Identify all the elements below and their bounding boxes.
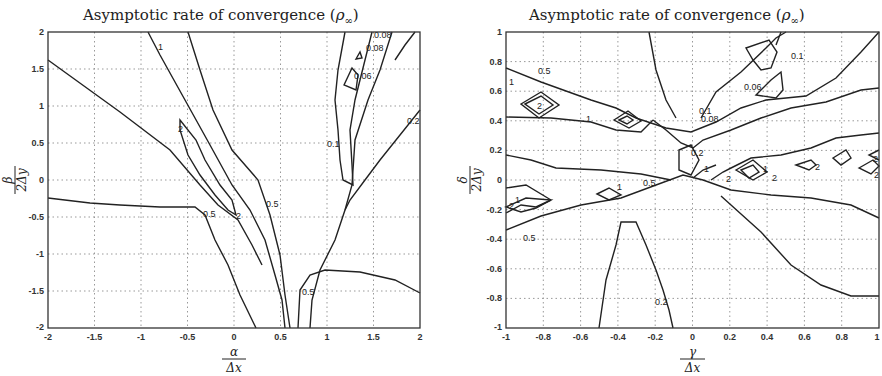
svg-text:0.8: 0.8 bbox=[835, 332, 848, 342]
svg-text:0.2: 0.2 bbox=[724, 332, 737, 342]
svg-text:0.06: 0.06 bbox=[354, 71, 372, 81]
svg-text:-0.8: -0.8 bbox=[486, 293, 502, 303]
left-plot-canvas: 1 2 0.5 2 0.5 0.1 0.06 0.08 0.08 0.2 0.5… bbox=[0, 0, 441, 376]
svg-text:-1: -1 bbox=[502, 332, 510, 342]
svg-text:-2: -2 bbox=[44, 332, 52, 342]
svg-text:2: 2 bbox=[726, 174, 731, 184]
svg-text:0: 0 bbox=[690, 332, 695, 342]
svg-text:1: 1 bbox=[515, 195, 520, 205]
left-x-ticks: -2-1.5 -1-0.5 00.5 11.5 2 bbox=[44, 332, 423, 342]
svg-text:1: 1 bbox=[39, 101, 44, 111]
svg-text:0.5: 0.5 bbox=[266, 199, 279, 209]
svg-text:0.08: 0.08 bbox=[701, 114, 719, 124]
svg-text:-2: -2 bbox=[36, 322, 44, 332]
svg-text:1: 1 bbox=[158, 42, 163, 52]
right-y-axis-label: δ 2Δy bbox=[456, 166, 484, 194]
svg-text:0.5: 0.5 bbox=[274, 332, 287, 342]
svg-text:0.5: 0.5 bbox=[203, 209, 216, 219]
svg-text:1: 1 bbox=[704, 164, 709, 174]
svg-text:0.8: 0.8 bbox=[489, 57, 502, 67]
svg-text:-0.2: -0.2 bbox=[486, 205, 502, 215]
svg-text:0.5: 0.5 bbox=[302, 287, 315, 297]
svg-text:1: 1 bbox=[497, 27, 502, 37]
svg-text:1: 1 bbox=[617, 182, 622, 192]
svg-text:2: 2 bbox=[537, 101, 542, 111]
svg-text:-0.5: -0.5 bbox=[180, 332, 196, 342]
svg-text:0.6: 0.6 bbox=[489, 86, 502, 96]
right-grid bbox=[506, 32, 879, 328]
left-x-axis-label: α Δx bbox=[222, 345, 246, 375]
svg-text:-1.5: -1.5 bbox=[87, 332, 103, 342]
svg-text:2: 2 bbox=[815, 162, 820, 172]
right-xlabel-num: γ bbox=[689, 345, 697, 359]
left-ylabel-den: 2Δy bbox=[15, 168, 29, 192]
svg-text:0: 0 bbox=[497, 175, 502, 185]
left-xlabel-num: α bbox=[230, 345, 238, 359]
svg-text:2: 2 bbox=[874, 170, 879, 180]
left-y-ticks: 21.5 10.5 0-0.5 -1-1.5 -2 bbox=[28, 27, 44, 332]
svg-text:-0.6: -0.6 bbox=[486, 264, 502, 274]
svg-text:1.5: 1.5 bbox=[367, 332, 380, 342]
svg-text:-0.4: -0.4 bbox=[486, 234, 502, 244]
left-contour-plot: Asymptotic rate of convergence (ρ∞) bbox=[0, 0, 441, 376]
right-contour-plot: Asymptotic rate of convergence (ρ∞) bbox=[441, 0, 882, 376]
right-x-axis-label: γ Δx bbox=[680, 345, 705, 375]
svg-text:0.4: 0.4 bbox=[489, 116, 502, 126]
left-y-axis-label: β 2Δy bbox=[1, 166, 29, 194]
right-ylabel-num: δ bbox=[456, 176, 470, 183]
svg-text:0.2: 0.2 bbox=[691, 148, 704, 158]
left-ylabel-num: β bbox=[1, 176, 15, 184]
svg-text:1.5: 1.5 bbox=[31, 64, 44, 74]
svg-text:0.2: 0.2 bbox=[407, 116, 420, 126]
svg-text:-1: -1 bbox=[494, 322, 502, 332]
svg-text:1: 1 bbox=[874, 332, 879, 342]
svg-text:0.1: 0.1 bbox=[327, 139, 340, 149]
svg-text:0.08: 0.08 bbox=[366, 43, 384, 53]
svg-text:2: 2 bbox=[178, 124, 183, 134]
svg-text:0.4: 0.4 bbox=[761, 332, 774, 342]
svg-text:0: 0 bbox=[39, 175, 44, 185]
svg-text:-0.2: -0.2 bbox=[647, 332, 663, 342]
right-xlabel-den: Δx bbox=[684, 361, 701, 375]
svg-text:-1: -1 bbox=[36, 249, 44, 259]
svg-text:-1: -1 bbox=[137, 332, 145, 342]
svg-text:1: 1 bbox=[586, 114, 591, 124]
svg-text:0.5: 0.5 bbox=[538, 66, 551, 76]
svg-text:2: 2 bbox=[236, 211, 241, 221]
svg-text:-1.5: -1.5 bbox=[28, 286, 44, 296]
svg-text:-0.4: -0.4 bbox=[610, 332, 626, 342]
svg-text:0.6: 0.6 bbox=[798, 332, 811, 342]
right-contours bbox=[506, 32, 879, 328]
svg-text:0.06: 0.06 bbox=[744, 82, 762, 92]
right-ylabel-den: 2Δy bbox=[470, 168, 484, 192]
svg-text:-0.5: -0.5 bbox=[28, 212, 44, 222]
right-frame bbox=[506, 32, 879, 328]
svg-text:0.2: 0.2 bbox=[655, 297, 668, 307]
right-y-ticks: 10.8 0.60.4 0.20 -0.2-0.4 -0.6-0.8 -1 bbox=[486, 27, 502, 332]
svg-text:2: 2 bbox=[509, 201, 514, 211]
svg-text:-0.6: -0.6 bbox=[573, 332, 589, 342]
svg-text:1: 1 bbox=[324, 332, 329, 342]
svg-text:0: 0 bbox=[231, 332, 236, 342]
svg-text:2: 2 bbox=[417, 332, 422, 342]
svg-text:0.5: 0.5 bbox=[523, 233, 536, 243]
svg-text:0.1: 0.1 bbox=[791, 51, 804, 61]
svg-text:1: 1 bbox=[763, 164, 768, 174]
svg-text:-0.8: -0.8 bbox=[536, 332, 552, 342]
svg-text:0.5: 0.5 bbox=[643, 178, 656, 188]
right-x-ticks: -1-0.8 -0.6-0.4 -0.20 0.20.4 0.60.8 1 bbox=[502, 332, 880, 342]
left-xlabel-den: Δx bbox=[225, 361, 242, 375]
svg-text:2: 2 bbox=[39, 27, 44, 37]
right-plot-canvas: 0.5 1 2 1 0.1 0.08 0.06 0.1 0.2 1 2 1 2 … bbox=[441, 0, 882, 376]
svg-text:2: 2 bbox=[873, 154, 878, 164]
svg-text:2: 2 bbox=[772, 173, 777, 183]
svg-text:0.5: 0.5 bbox=[31, 138, 44, 148]
svg-text:0.2: 0.2 bbox=[489, 145, 502, 155]
svg-text:1: 1 bbox=[509, 77, 514, 87]
